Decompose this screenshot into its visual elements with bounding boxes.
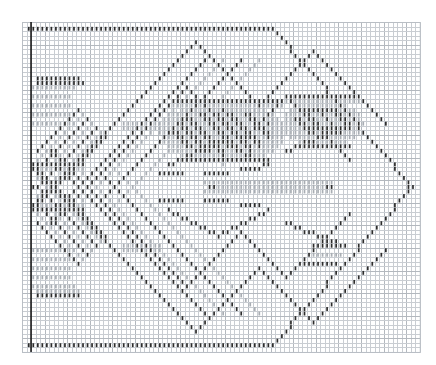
needlework-chart-canvas (0, 0, 436, 365)
chart-page (0, 0, 436, 365)
